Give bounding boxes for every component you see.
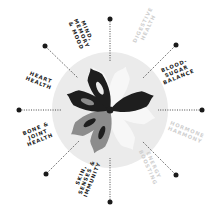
wellness-wheel: [0, 0, 219, 219]
dot-heart[interactable]: [17, 108, 22, 113]
dot-mind[interactable]: [43, 44, 48, 49]
dot-hormone[interactable]: [200, 108, 205, 113]
dot-blood-sugar[interactable]: [174, 43, 179, 48]
dot-bone[interactable]: [44, 172, 49, 177]
dot-skin[interactable]: [108, 200, 113, 205]
center-hub: [107, 107, 114, 114]
dot-energy[interactable]: [174, 173, 179, 178]
dot-digestive[interactable]: [108, 17, 113, 22]
